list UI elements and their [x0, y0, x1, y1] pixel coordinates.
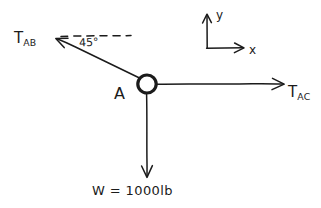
force-vector-tac: [157, 78, 284, 89]
joint-ring: [138, 75, 156, 93]
force-label-weight: W = 1000lb: [92, 184, 173, 197]
diagram-drawing: [0, 0, 321, 208]
joint-ring-circle: [138, 75, 156, 93]
axis-label-x: x: [249, 44, 256, 56]
force-vector-weight: [142, 95, 153, 178]
force-label-tac-subscript: AC: [297, 91, 310, 102]
force-label-tac: TAC: [288, 85, 310, 100]
force-label-tab-main: T: [14, 29, 23, 47]
force-label-tab: TAB: [14, 31, 37, 46]
angle-label-45: 45°: [79, 36, 99, 48]
tac-arrow-shaft: [157, 84, 283, 85]
coordinate-axes: [203, 14, 244, 52]
axis-label-y: y: [216, 9, 223, 21]
joint-label-a: A: [114, 86, 125, 102]
free-body-diagram-canvas: TAB 45° A TAC W = 1000lb y x: [0, 0, 321, 208]
force-label-tac-main: T: [288, 83, 297, 101]
force-label-tab-subscript: AB: [23, 37, 36, 48]
